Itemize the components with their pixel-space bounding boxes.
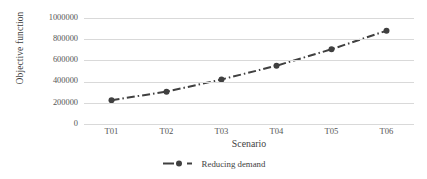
- x-tick-label: T05: [325, 126, 339, 136]
- x-tick-label: T04: [270, 126, 284, 136]
- series-line: [112, 31, 387, 100]
- data-point-marker: [384, 28, 390, 34]
- x-axis-title: Scenario: [84, 138, 414, 149]
- x-tick-label: T06: [380, 126, 394, 136]
- y-tick-label: 0: [74, 120, 78, 128]
- legend-point-marker: [176, 161, 182, 167]
- data-point-marker: [274, 63, 280, 69]
- x-tick-label: T02: [160, 126, 174, 136]
- gridline: [84, 124, 414, 125]
- gridline: [84, 39, 414, 40]
- gridline: [84, 18, 414, 19]
- data-point-marker: [329, 46, 335, 52]
- data-point-marker: [164, 89, 170, 95]
- objective-function-chart: Objective function 020000040000060000080…: [0, 0, 427, 179]
- series-reducing-demand: [84, 18, 414, 124]
- gridline: [84, 82, 414, 83]
- gridline: [84, 103, 414, 104]
- legend-marker-icon: [162, 158, 198, 169]
- y-tick-label: 400000: [53, 77, 78, 85]
- x-tick-label: T01: [105, 126, 119, 136]
- y-tick-label: 1000000: [49, 14, 78, 22]
- chart-legend: Reducing demand: [0, 158, 427, 169]
- y-tick-label: 600000: [53, 56, 78, 64]
- x-tick-label: T03: [215, 126, 229, 136]
- gridline: [84, 60, 414, 61]
- legend-item-label: Reducing demand: [202, 159, 266, 169]
- y-tick-label: 200000: [53, 99, 78, 107]
- plot-area: [84, 18, 414, 124]
- y-tick-label: 800000: [53, 35, 78, 43]
- y-axis-tick-labels: 02000004000006000008000001000000: [22, 12, 80, 130]
